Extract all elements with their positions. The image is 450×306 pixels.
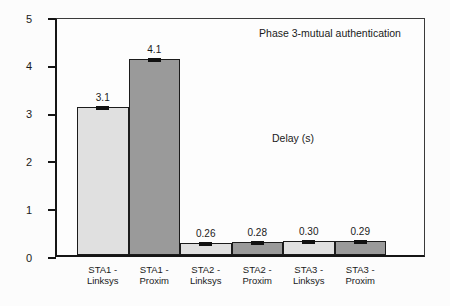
y-axis-tick (48, 18, 56, 20)
x-axis-label: STA3 - Proxim (331, 264, 391, 286)
chart-title: Phase 3-mutual authentication (225, 27, 435, 40)
error-bar-mark (354, 240, 367, 244)
bar-sta2-linksys (180, 243, 232, 255)
bar-sta2-proxim (232, 242, 284, 255)
error-bar-mark (302, 240, 315, 244)
bar-sta3-proxim (335, 241, 387, 255)
plot-area: Phase 3-mutual authentication Delay (s) … (55, 18, 425, 257)
y-axis-label: 1 (23, 203, 35, 217)
error-bar-mark (96, 106, 109, 110)
y-axis-label: 2 (23, 155, 35, 169)
y-axis-label: 3 (23, 107, 35, 121)
y-axis-tick (48, 114, 56, 116)
bar-value-label: 3.1 (77, 92, 129, 104)
y-axis-label: 0 (23, 251, 35, 265)
bar-value-label: 0.28 (232, 227, 284, 239)
error-bar-mark (251, 241, 264, 245)
bar-value-label: 0.26 (180, 228, 232, 240)
bar-value-label: 0.29 (335, 226, 387, 238)
bar-chart-figure: Phase 3-mutual authentication Delay (s) … (0, 0, 450, 306)
y-axis-tick (48, 257, 56, 259)
bar-value-label: 4.1 (129, 44, 181, 56)
bar-sta3-linksys (283, 241, 335, 255)
error-bar-mark (148, 58, 161, 62)
y-axis-tick (48, 209, 56, 211)
bar-sta1-proxim (129, 59, 181, 255)
bar-sta1-linksys (77, 107, 129, 255)
error-bar-mark (199, 242, 212, 246)
delay-annotation: Delay (s) (253, 132, 333, 145)
bar-value-label: 0.30 (283, 226, 335, 238)
y-axis-label: 4 (23, 59, 35, 73)
y-axis-tick (48, 161, 56, 163)
y-axis-label: 5 (23, 12, 35, 26)
y-axis-tick (48, 66, 56, 68)
